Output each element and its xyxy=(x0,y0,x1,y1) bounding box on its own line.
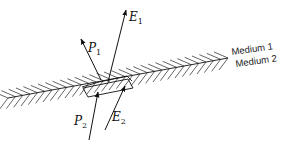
diagram-canvas: E1 P1 P2 E2 Medium 1 Medium 2 xyxy=(0,0,287,145)
label-p2: P2 xyxy=(73,114,87,130)
hatching-medium-2 xyxy=(0,58,228,110)
label-p1: P1 xyxy=(87,41,101,57)
label-e1: E1 xyxy=(128,10,143,26)
vector-p2-arrow xyxy=(89,92,98,140)
label-e2: E2 xyxy=(111,110,126,126)
